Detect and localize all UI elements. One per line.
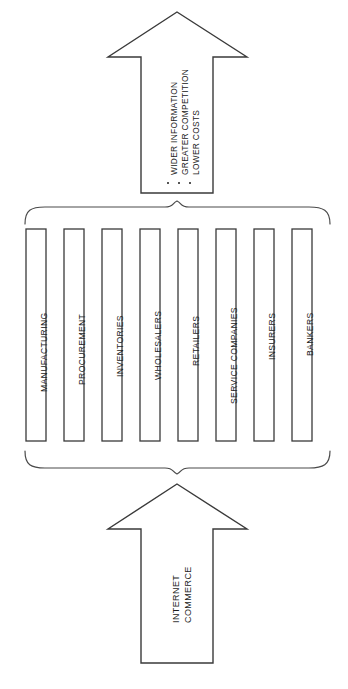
sector-bar[interactable] xyxy=(216,229,236,441)
sector-bar[interactable] xyxy=(64,229,84,441)
sector-bar[interactable] xyxy=(178,229,198,441)
top-brace xyxy=(25,201,330,224)
sector-bar[interactable] xyxy=(102,229,122,441)
diagram-canvas: WIDER INFORMATION GREATER COMPETITION LO… xyxy=(0,0,348,689)
outcomes-arrow-shape xyxy=(108,12,247,193)
internet-commerce-arrow-shape xyxy=(108,484,247,663)
sector-bar[interactable] xyxy=(26,229,46,441)
sector-bar[interactable] xyxy=(292,229,312,441)
sector-bar[interactable] xyxy=(140,229,160,441)
sector-bar[interactable] xyxy=(254,229,274,441)
diagram-vector-layer xyxy=(0,0,348,689)
bottom-brace xyxy=(25,451,330,474)
